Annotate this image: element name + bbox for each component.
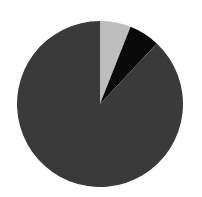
pie-chart xyxy=(0,0,202,197)
pie-slice-3 xyxy=(17,21,183,187)
pie-slices xyxy=(17,21,183,187)
